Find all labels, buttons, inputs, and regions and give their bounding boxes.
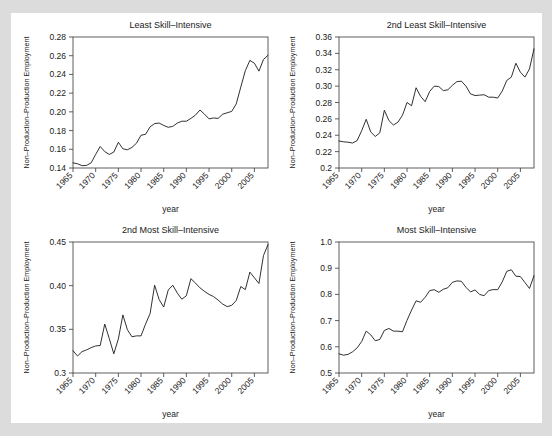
y-tick-label: 0.30 [315, 81, 332, 91]
y-tick-label: 0.24 [49, 69, 66, 79]
y-tick-label: 0.35 [49, 324, 66, 334]
plot-frame [73, 242, 268, 373]
x-tick-label: 1975 [365, 375, 386, 396]
x-tick-label: 1965 [319, 170, 340, 191]
x-tick-label: 2005 [501, 170, 522, 191]
y-tick-label: 0.2 [320, 163, 332, 173]
plot-frame [339, 37, 534, 168]
panel-2nd-most-skill-intensive: 2nd Most Skill–Intensive0.30.350.400.451… [11, 218, 276, 423]
chart-svg: Most Skill–Intensive0.50.60.70.80.91.019… [277, 218, 542, 423]
x-axis: 196519701975198019851990199520002005 [319, 373, 521, 396]
y-axis: 0.30.350.400.45 [49, 237, 73, 378]
y-tick-label: 0.16 [49, 144, 66, 154]
y-axis: 0.140.160.180.200.220.240.260.28 [49, 32, 73, 173]
y-tick-label: 0.26 [315, 114, 332, 124]
x-tick-label: 1965 [54, 375, 75, 396]
y-tick-label: 0.6 [320, 342, 332, 352]
x-tick-label: 1970 [77, 375, 98, 396]
x-tick-label: 2000 [213, 375, 234, 396]
x-tick-label: 1985 [145, 375, 166, 396]
y-tick-label: 0.18 [49, 126, 66, 136]
y-tick-label: 0.22 [49, 88, 66, 98]
data-series-line [339, 270, 534, 355]
x-axis: 196519701975198019851990199520002005 [319, 168, 521, 191]
x-tick-label: 1990 [167, 170, 188, 191]
panel-least-skill-intensive: Least Skill–Intensive0.140.160.180.200.2… [11, 13, 276, 218]
y-tick-label: 0.40 [49, 281, 66, 291]
chart-svg: 2nd Least Skill–Intensive0.20.220.240.26… [277, 13, 542, 218]
figure-root: Least Skill–Intensive0.140.160.180.200.2… [0, 0, 552, 436]
x-tick-label: 1965 [54, 170, 75, 191]
y-axis: 0.20.220.240.260.280.300.320.340.36 [315, 32, 339, 173]
x-axis-title: year [162, 409, 179, 419]
x-tick-label: 1975 [365, 170, 386, 191]
data-series-line [73, 245, 268, 356]
y-axis-title: Non–Production–Production Employment [22, 37, 31, 169]
y-tick-label: 0.7 [320, 316, 332, 326]
panel-title: 2nd Most Skill–Intensive [122, 225, 219, 235]
panel-title: Least Skill–Intensive [129, 20, 211, 30]
y-tick-label: 0.9 [320, 263, 332, 273]
x-tick-label: 1990 [167, 375, 188, 396]
y-tick-label: 0.22 [315, 147, 332, 157]
x-tick-label: 1995 [456, 375, 477, 396]
x-axis-title: year [428, 409, 445, 419]
panel-grid: Least Skill–Intensive0.140.160.180.200.2… [11, 13, 542, 423]
y-tick-label: 0.24 [315, 130, 332, 140]
y-tick-label: 0.20 [49, 107, 66, 117]
x-tick-label: 2005 [235, 375, 256, 396]
y-tick-label: 0.28 [49, 32, 66, 42]
x-tick-label: 2000 [478, 170, 499, 191]
x-tick-label: 1970 [342, 375, 363, 396]
y-tick-label: 0.14 [49, 163, 66, 173]
chart-svg: Least Skill–Intensive0.140.160.180.200.2… [11, 13, 276, 218]
y-tick-label: 1.0 [320, 237, 332, 247]
x-tick-label: 1995 [456, 170, 477, 191]
y-tick-label: 0.5 [320, 368, 332, 378]
y-axis-title: Non–Production–Production Employment [288, 37, 297, 169]
x-tick-label: 1980 [387, 375, 408, 396]
x-tick-label: 2005 [501, 375, 522, 396]
x-tick-label: 2000 [478, 375, 499, 396]
y-axis-title: Non–Production–Production Employment [22, 242, 31, 374]
x-tick-label: 1975 [99, 375, 120, 396]
y-tick-label: 0.3 [54, 368, 66, 378]
x-tick-label: 2000 [213, 170, 234, 191]
data-series-line [73, 55, 268, 165]
x-tick-label: 1965 [319, 375, 340, 396]
x-axis: 196519701975198019851990199520002005 [54, 168, 256, 191]
panel-2nd-least-skill-intensive: 2nd Least Skill–Intensive0.20.220.240.26… [277, 13, 542, 218]
y-axis-title: Non–Production–Production Employment [288, 242, 297, 374]
panel-title: 2nd Least Skill–Intensive [386, 20, 486, 30]
x-tick-label: 1995 [190, 170, 211, 191]
y-tick-label: 0.32 [315, 65, 332, 75]
y-tick-label: 0.36 [315, 32, 332, 42]
x-axis-title: year [162, 204, 179, 214]
x-tick-label: 1985 [410, 170, 431, 191]
x-tick-label: 1985 [145, 170, 166, 191]
panel-most-skill-intensive: Most Skill–Intensive0.50.60.70.80.91.019… [277, 218, 542, 423]
x-tick-label: 1995 [190, 375, 211, 396]
x-tick-label: 1970 [342, 170, 363, 191]
y-tick-label: 0.8 [320, 289, 332, 299]
x-tick-label: 1980 [122, 375, 143, 396]
chart-svg: 2nd Most Skill–Intensive0.30.350.400.451… [11, 218, 276, 423]
y-axis: 0.50.60.70.80.91.0 [320, 237, 339, 378]
x-tick-label: 1980 [122, 170, 143, 191]
y-tick-label: 0.45 [49, 237, 66, 247]
x-tick-label: 2005 [235, 170, 256, 191]
y-tick-label: 0.28 [315, 98, 332, 108]
y-tick-label: 0.26 [49, 51, 66, 61]
y-tick-label: 0.34 [315, 48, 332, 58]
x-tick-label: 1980 [387, 170, 408, 191]
x-tick-label: 1970 [77, 170, 98, 191]
x-tick-label: 1975 [99, 170, 120, 191]
x-axis-title: year [428, 204, 445, 214]
figure-canvas: Least Skill–Intensive0.140.160.180.200.2… [11, 13, 542, 423]
panel-title: Most Skill–Intensive [396, 225, 476, 235]
x-tick-label: 1990 [433, 375, 454, 396]
x-tick-label: 1985 [410, 375, 431, 396]
plot-frame [339, 242, 534, 373]
x-axis: 196519701975198019851990199520002005 [54, 373, 256, 396]
x-tick-label: 1990 [433, 170, 454, 191]
